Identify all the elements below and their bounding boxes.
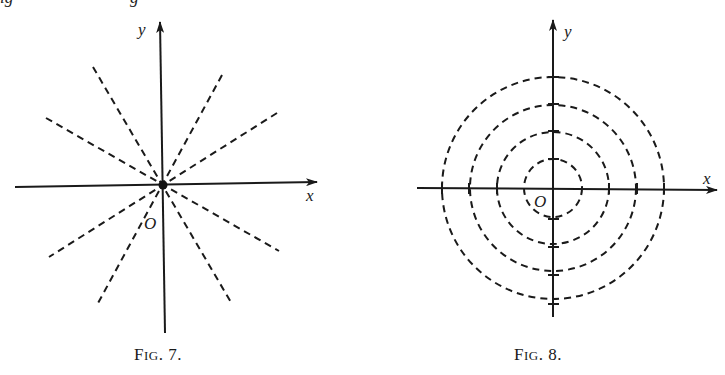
- figure-8: y x O: [417, 20, 717, 317]
- origin-node-dot: [159, 181, 168, 190]
- caption-smallcaps: IG: [144, 348, 159, 363]
- y-axis: [160, 22, 165, 333]
- x-axis: [417, 188, 717, 190]
- x-axis-label: x: [305, 186, 314, 205]
- y-axis-label: y: [136, 20, 146, 39]
- figure-8-caption: FIG. 8.: [514, 345, 562, 365]
- caption-number: . 8.: [539, 345, 562, 364]
- origin-label: O: [534, 192, 546, 211]
- origin-label: O: [144, 214, 156, 233]
- caption-smallcaps: IG: [524, 348, 539, 363]
- figures-canvas: y x O: [0, 0, 725, 375]
- y-axis-label: y: [562, 22, 572, 41]
- caption-prefix: F: [514, 345, 524, 364]
- figure-7: y x O: [15, 20, 317, 333]
- caption-number: . 7.: [159, 345, 182, 364]
- x-axis-label: x: [702, 169, 711, 188]
- dashed-line-steep-positive: [97, 75, 222, 305]
- caption-prefix: F: [134, 345, 144, 364]
- figure-7-caption: FIG. 7.: [134, 345, 182, 365]
